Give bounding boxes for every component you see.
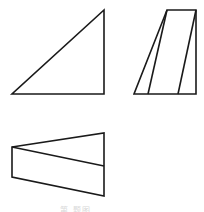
top-view-diagonal (12, 147, 104, 166)
front-view-triangle (12, 10, 104, 94)
top-view-outline (12, 133, 104, 196)
three-view-diagram (0, 0, 204, 212)
side-view-inner-line-2 (178, 10, 196, 94)
figure-caption: 第 题图 (60, 204, 150, 212)
